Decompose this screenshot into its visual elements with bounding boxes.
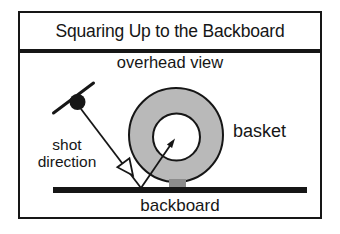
basket-ring-inner [153, 114, 200, 161]
subtitle-overhead-view: overhead view [18, 54, 322, 71]
label-basket: basket [233, 123, 303, 140]
backboard-bar [53, 187, 307, 193]
ball-icon [54, 83, 94, 113]
ball-circle [70, 94, 86, 110]
label-backboard: backboard [100, 197, 260, 214]
basket-ring [129, 88, 223, 182]
basket-mount [169, 179, 186, 188]
label-shot-direction: shot direction [30, 136, 104, 170]
